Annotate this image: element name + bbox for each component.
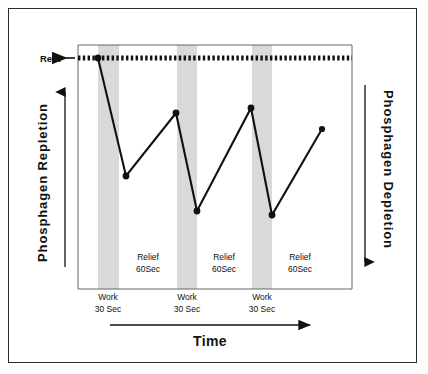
- work-band-1: [98, 45, 119, 289]
- phosphagen-series: [95, 55, 326, 219]
- relief-duration-1: 60Sec: [136, 264, 161, 274]
- work-duration-2: 30 Sec: [174, 304, 201, 314]
- data-point: [95, 55, 102, 62]
- chart-svg: Rest Phosphagen Repletion Phosphagen Dep…: [0, 0, 428, 374]
- y-axis-left-label: Phosphagen Repletion: [35, 103, 50, 262]
- relief-labels: Relief 60Sec Relief 60Sec Relief 60Sec: [136, 252, 313, 274]
- relief-duration-3: 60Sec: [288, 264, 313, 274]
- x-axis-label: Time: [193, 333, 227, 349]
- work-label-1: Work: [98, 292, 118, 302]
- data-point: [194, 208, 201, 215]
- data-point: [319, 126, 325, 132]
- work-duration-3: 30 Sec: [249, 304, 276, 314]
- data-point: [173, 110, 180, 117]
- work-label-3: Work: [252, 292, 272, 302]
- relief-label-1: Relief: [137, 252, 159, 262]
- y-axis-right-label: Phosphagen Depletion: [381, 90, 396, 249]
- relief-label-3: Relief: [289, 252, 311, 262]
- work-label-2: Work: [177, 292, 197, 302]
- work-duration-1: 30 Sec: [95, 304, 122, 314]
- data-point: [269, 212, 276, 219]
- rest-label: Rest: [40, 53, 61, 64]
- relief-label-2: Relief: [213, 252, 235, 262]
- figure-container: Rest Phosphagen Repletion Phosphagen Dep…: [0, 0, 428, 374]
- work-labels: Work 30 Sec Work 30 Sec Work 30 Sec: [95, 292, 276, 314]
- relief-duration-2: 60Sec: [212, 264, 237, 274]
- data-point: [123, 173, 130, 180]
- phosphagen-line: [98, 58, 322, 215]
- data-point: [248, 105, 255, 112]
